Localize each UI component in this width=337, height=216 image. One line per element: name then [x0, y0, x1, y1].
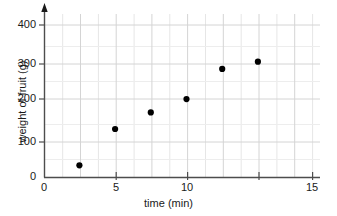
y-axis — [41, 3, 47, 178]
scatter-chart: 0 100 200 300 400 0 5 10 15 time (min) w… — [0, 0, 337, 216]
data-point — [148, 109, 154, 115]
x-tick-label-15: 15 — [300, 182, 324, 193]
grid-horizontal-minor — [44, 47, 320, 160]
data-point — [112, 126, 118, 132]
grid-vertical-major — [81, 14, 295, 177]
x-axis-ticks — [116, 172, 312, 180]
x-tick-label-5: 5 — [104, 182, 128, 193]
x-tick-label-10: 10 — [175, 182, 199, 193]
data-point — [219, 66, 225, 72]
y-tick-label-0: 0 — [0, 171, 36, 182]
data-point — [76, 162, 82, 168]
x-axis-title: time (min) — [0, 198, 337, 209]
y-tick-label-400: 400 — [0, 19, 36, 30]
x-tick-label-0: 0 — [32, 182, 56, 193]
data-points — [76, 59, 261, 169]
data-point — [183, 96, 189, 102]
data-point — [255, 59, 261, 65]
y-axis-title: weight of fruit (g) — [17, 32, 28, 172]
